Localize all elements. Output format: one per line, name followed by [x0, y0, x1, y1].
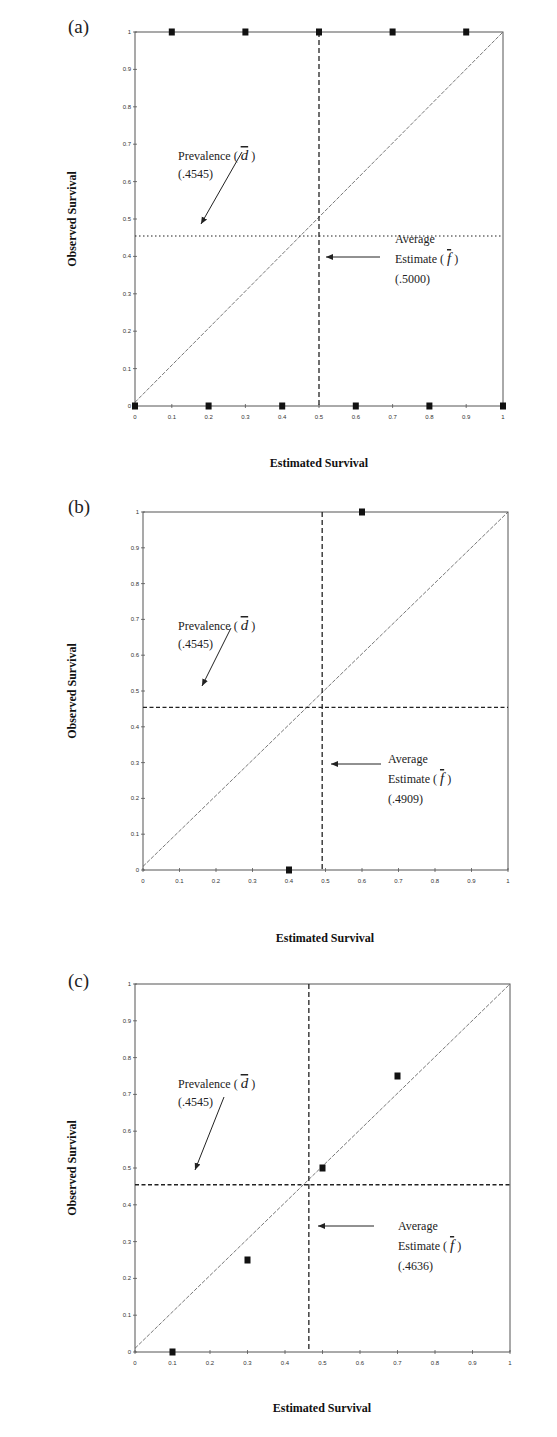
chart-panel-c: (c)00.10.20.30.40.50.60.70.80.9100.10.20… [65, 970, 512, 1415]
y-tick-label: 0.6 [131, 652, 140, 658]
x-tick-label: 1 [501, 414, 505, 420]
y-tick-label: 0.5 [123, 1165, 132, 1171]
x-axis-title: Estimated Survival [276, 931, 375, 945]
y-tick-label: 1 [136, 509, 140, 515]
average-label: Average [398, 1219, 438, 1233]
x-tick-label: 1 [506, 878, 510, 884]
chart-panel-a: (a)00.10.20.30.40.50.60.70.80.9100.10.20… [65, 16, 506, 470]
data-point [169, 29, 175, 36]
y-tick-label: 0 [136, 867, 140, 873]
y-tick-label: 0 [128, 1349, 132, 1355]
panel-label: (b) [68, 496, 90, 518]
prevalence-value: (.4545) [178, 637, 213, 651]
data-point [245, 1257, 251, 1264]
y-tick-label: 0.8 [123, 104, 132, 110]
y-tick-label: 0 [128, 403, 132, 409]
prevalence-value: (.4545) [178, 167, 213, 181]
average-value: (.5000) [395, 272, 430, 286]
chart-panel-b: (b)00.10.20.30.40.50.60.70.80.9100.10.20… [65, 496, 510, 945]
x-tick-label: 0.9 [468, 1360, 477, 1366]
prevalence-label: Prevalence ( d ) [178, 147, 255, 163]
y-tick-label: 0.6 [123, 1128, 132, 1134]
x-tick-label: 0.8 [431, 878, 440, 884]
x-tick-label: 0.9 [467, 878, 476, 884]
y-tick-label: 0.9 [123, 66, 132, 72]
x-tick-label: 0.1 [175, 878, 184, 884]
panel-label: (a) [68, 16, 89, 38]
average-value: (.4636) [398, 1259, 433, 1273]
x-tick-label: 0.5 [315, 414, 324, 420]
data-point [359, 509, 365, 516]
x-tick-label: 0.4 [285, 878, 294, 884]
panel-label: (c) [68, 970, 89, 992]
x-tick-label: 0.7 [394, 878, 403, 884]
x-tick-label: 1 [508, 1360, 512, 1366]
prevalence-value: (.4545) [178, 1095, 213, 1109]
y-tick-label: 0.1 [123, 366, 132, 372]
x-tick-label: 0 [141, 878, 145, 884]
y-tick-label: 0.3 [123, 1239, 132, 1245]
x-tick-label: 0.3 [248, 878, 257, 884]
y-tick-label: 0.1 [123, 1312, 132, 1318]
y-tick-label: 0.7 [123, 1091, 132, 1097]
data-point [316, 29, 322, 36]
x-tick-label: 0.2 [212, 878, 221, 884]
data-point [395, 1073, 401, 1080]
x-tick-label: 0.2 [206, 1360, 215, 1366]
y-tick-label: 0.2 [131, 795, 140, 801]
prevalence-label: Prevalence ( d ) [178, 617, 255, 633]
y-tick-label: 0.3 [131, 760, 140, 766]
x-tick-label: 0.5 [318, 1360, 327, 1366]
x-tick-label: 0.4 [278, 414, 287, 420]
estimate-label: Estimate ( f ) [388, 770, 451, 786]
y-tick-label: 0.3 [123, 291, 132, 297]
y-tick-label: 0.7 [131, 616, 140, 622]
x-tick-label: 0.6 [358, 878, 367, 884]
y-tick-label: 0.8 [131, 581, 140, 587]
y-tick-label: 0.9 [123, 1018, 132, 1024]
y-tick-label: 0.7 [123, 141, 132, 147]
data-point [242, 29, 248, 36]
x-tick-label: 0.9 [462, 414, 471, 420]
estimate-label: Estimate ( f ) [395, 250, 458, 266]
x-tick-label: 0.7 [393, 1360, 402, 1366]
y-axis-title: Observed Survival [65, 1119, 79, 1215]
y-tick-label: 0.1 [131, 831, 140, 837]
x-tick-label: 0.1 [168, 414, 177, 420]
data-point [500, 403, 506, 410]
y-tick-label: 0.4 [123, 1202, 132, 1208]
data-point [279, 403, 285, 410]
perfect-calibration-line [143, 512, 508, 866]
y-tick-label: 0.2 [123, 328, 132, 334]
x-tick-label: 0.1 [168, 1360, 177, 1366]
x-tick-label: 0 [133, 1360, 137, 1366]
x-axis-title: Estimated Survival [270, 456, 369, 470]
x-tick-label: 0.8 [431, 1360, 440, 1366]
x-tick-label: 0.6 [356, 1360, 365, 1366]
average-label: Average [388, 752, 428, 766]
y-tick-label: 0.4 [123, 253, 132, 259]
x-tick-label: 0.5 [321, 878, 330, 884]
y-tick-label: 0.2 [123, 1275, 132, 1281]
data-point [320, 1165, 326, 1172]
y-tick-label: 0.5 [131, 688, 140, 694]
calibration-figure: (a)00.10.20.30.40.50.60.70.80.9100.10.20… [0, 0, 557, 1437]
y-tick-label: 0.9 [131, 545, 140, 551]
x-tick-label: 0.3 [243, 1360, 252, 1366]
data-point [353, 403, 359, 410]
y-tick-label: 0.5 [123, 216, 132, 222]
y-tick-label: 1 [128, 981, 132, 987]
y-tick-label: 0.4 [131, 724, 140, 730]
data-point [390, 29, 396, 36]
data-point [426, 403, 432, 410]
average-label: Average [395, 232, 435, 246]
y-tick-label: 0.8 [123, 1055, 132, 1061]
x-axis-title: Estimated Survival [273, 1401, 372, 1415]
x-tick-label: 0.8 [425, 414, 434, 420]
data-point [206, 403, 212, 410]
x-tick-label: 0.3 [241, 414, 250, 420]
prevalence-label: Prevalence ( d ) [178, 1075, 255, 1091]
y-axis-title: Observed Survival [65, 170, 79, 266]
y-axis-title: Observed Survival [65, 642, 79, 738]
x-tick-label: 0 [133, 414, 137, 420]
